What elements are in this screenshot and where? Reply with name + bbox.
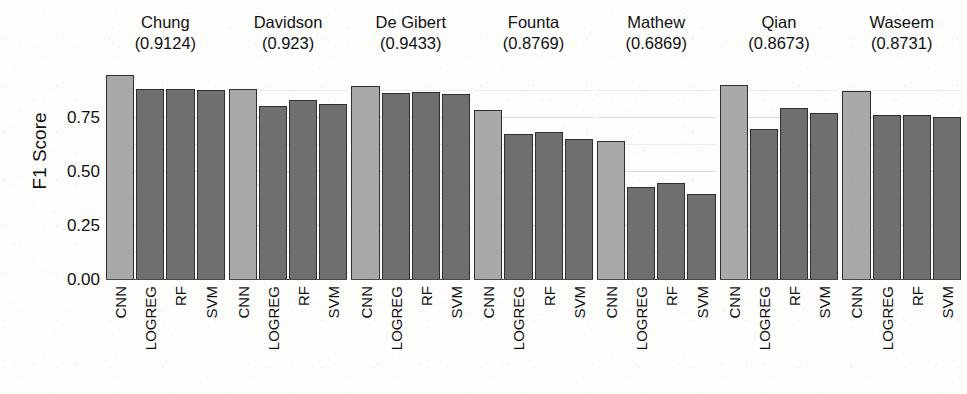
bar-group — [229, 64, 348, 280]
x-tick-label: RF — [172, 286, 189, 306]
x-label-cell: RF — [166, 282, 194, 386]
x-tick-label: LOGREG — [142, 286, 159, 350]
panel-dataset-name: De Gibert — [375, 13, 446, 31]
x-label-cell: CNN — [474, 282, 502, 386]
x-tick-label: RF — [540, 286, 557, 306]
x-tick-label: LOGREG — [633, 286, 650, 350]
bar-rf[interactable] — [412, 92, 440, 280]
facet-panel: Qian(0.8673)CNNLOGREGRFSVM — [718, 0, 841, 394]
x-tick-label: SVM — [202, 286, 219, 319]
bar-rf[interactable] — [657, 183, 685, 280]
bar-rf[interactable] — [166, 89, 194, 280]
panel-dataset-name: Chung — [141, 13, 190, 31]
panel-score-value: (0.8769) — [472, 33, 595, 54]
bar-svm[interactable] — [687, 194, 715, 280]
x-label-cell: CNN — [597, 282, 625, 386]
panel-baseline — [106, 279, 225, 280]
x-label-cell: RF — [657, 282, 685, 386]
x-tick-label: CNN — [602, 286, 619, 319]
x-label-cell: RF — [535, 282, 563, 386]
panel-plot-area — [351, 64, 470, 280]
x-tick-label: RF — [663, 286, 680, 306]
x-label-cell: RF — [289, 282, 317, 386]
bar-cnn[interactable] — [474, 110, 502, 280]
bar-group — [597, 64, 716, 280]
x-label-cell: CNN — [229, 282, 257, 386]
x-tick-label: CNN — [480, 286, 497, 319]
x-tick-label: CNN — [357, 286, 374, 319]
x-label-cell: SVM — [319, 282, 347, 386]
x-tick-label: SVM — [693, 286, 710, 319]
y-tick-label: 0.00 — [44, 270, 100, 290]
x-label-cell: CNN — [842, 282, 870, 386]
bar-rf[interactable] — [780, 108, 808, 280]
x-tick-label: CNN — [848, 286, 865, 319]
panel-dataset-name: Founta — [508, 13, 559, 31]
bar-cnn[interactable] — [106, 75, 134, 280]
bar-rf[interactable] — [903, 115, 931, 280]
y-tick-label: 0.75 — [44, 108, 100, 128]
panel-title: De Gibert(0.9433) — [349, 12, 472, 54]
bar-cnn[interactable] — [597, 141, 625, 280]
bar-svm[interactable] — [933, 117, 961, 280]
panel-baseline — [229, 279, 348, 280]
bar-logreg[interactable] — [750, 129, 778, 280]
panel-title: Qian(0.8673) — [718, 12, 841, 54]
bar-rf[interactable] — [289, 100, 317, 280]
bar-cnn[interactable] — [842, 91, 870, 280]
bar-group — [474, 64, 593, 280]
bar-logreg[interactable] — [627, 187, 655, 280]
bar-svm[interactable] — [197, 90, 225, 280]
panel-title: Chung(0.9124) — [104, 12, 227, 54]
panel-title: Mathew(0.6869) — [595, 12, 718, 54]
x-label-cell: SVM — [197, 282, 225, 386]
x-axis-tick-labels: CNNLOGREGRFSVM — [229, 282, 348, 386]
bar-svm[interactable] — [319, 104, 347, 280]
panel-score-value: (0.8673) — [718, 33, 841, 54]
x-tick-label: SVM — [816, 286, 833, 319]
facet-panel: Mathew(0.6869)CNNLOGREGRFSVM — [595, 0, 718, 394]
panel-baseline — [842, 279, 961, 280]
x-tick-label: LOGREG — [510, 286, 527, 350]
panel-dataset-name: Waseem — [869, 13, 934, 31]
bar-rf[interactable] — [535, 132, 563, 280]
x-label-cell: LOGREG — [873, 282, 901, 386]
panel-plot-area — [720, 64, 839, 280]
x-label-cell: RF — [903, 282, 931, 386]
bar-logreg[interactable] — [382, 93, 410, 280]
bar-logreg[interactable] — [873, 115, 901, 280]
bar-group — [842, 64, 961, 280]
x-label-cell: LOGREG — [750, 282, 778, 386]
x-tick-label: CNN — [112, 286, 129, 319]
panel-title: Founta(0.8769) — [472, 12, 595, 54]
bar-logreg[interactable] — [136, 89, 164, 280]
panel-score-value: (0.8731) — [840, 33, 963, 54]
bar-cnn[interactable] — [720, 85, 748, 280]
panel-plot-area — [474, 64, 593, 280]
bar-svm[interactable] — [442, 94, 470, 280]
x-tick-label: RF — [908, 286, 925, 306]
x-label-cell: SVM — [442, 282, 470, 386]
panel-score-value: (0.9124) — [104, 33, 227, 54]
bar-logreg[interactable] — [259, 106, 287, 280]
bar-cnn[interactable] — [351, 86, 379, 280]
y-tick-label: 0.50 — [44, 162, 100, 182]
bar-cnn[interactable] — [229, 89, 257, 280]
bar-svm[interactable] — [565, 139, 593, 280]
panel-score-value: (0.9433) — [349, 33, 472, 54]
y-axis-tick-labels: 0.000.250.500.75 — [12, 0, 100, 394]
x-tick-label: SVM — [448, 286, 465, 319]
x-tick-label: SVM — [938, 286, 955, 319]
panel-plot-area — [842, 64, 961, 280]
panel-plot-area — [106, 64, 225, 280]
facet-panel: Chung(0.9124)CNNLOGREGRFSVM — [104, 0, 227, 394]
panel-title: Davidson(0.923) — [227, 12, 350, 54]
x-axis-tick-labels: CNNLOGREGRFSVM — [474, 282, 593, 386]
x-label-cell: RF — [412, 282, 440, 386]
bar-group — [720, 64, 839, 280]
bar-svm[interactable] — [810, 113, 838, 280]
x-label-cell: RF — [780, 282, 808, 386]
x-label-cell: LOGREG — [504, 282, 532, 386]
bar-logreg[interactable] — [504, 134, 532, 280]
x-axis-tick-labels: CNNLOGREGRFSVM — [106, 282, 225, 386]
